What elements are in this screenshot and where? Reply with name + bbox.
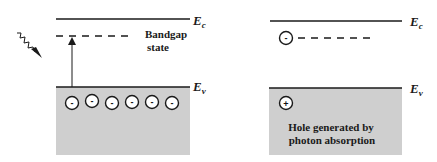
hole-caption-line1: Hole generated by	[288, 121, 374, 133]
electron: -	[106, 97, 119, 110]
svg-text:-: -	[285, 33, 288, 43]
bandgap-state-label: Bandgap	[145, 28, 187, 40]
electron: -	[146, 96, 159, 109]
valence-band-label: Ev	[192, 79, 207, 96]
electron: -	[86, 95, 99, 108]
bandgap-state-label-2: state	[147, 41, 169, 53]
hole: +	[280, 97, 293, 110]
svg-text:-: -	[91, 96, 94, 106]
photon-icon	[17, 33, 42, 58]
conduction-band-label-right: Ec	[409, 14, 423, 31]
valence-band-label-right: Ev	[409, 81, 424, 98]
electron: -	[166, 97, 179, 110]
trapped-electron: -	[280, 32, 293, 45]
conduction-band-label: Ec	[192, 13, 206, 30]
svg-text:-: -	[151, 97, 154, 107]
svg-text:-: -	[171, 98, 174, 108]
svg-text:-: -	[131, 97, 134, 107]
svg-text:-: -	[111, 98, 114, 108]
hole-caption-line2: photon absorption	[289, 134, 376, 146]
left-panel: Ec Bandgap state Ev - - -	[17, 13, 207, 155]
electron: -	[126, 96, 139, 109]
svg-text:+: +	[283, 99, 288, 109]
right-panel: Ec - Ev + Hole generated by photon absor…	[269, 14, 424, 155]
electron: -	[66, 97, 79, 110]
svg-text:-: -	[71, 98, 74, 108]
band-diagram: Ec Bandgap state Ev - - -	[0, 0, 437, 162]
